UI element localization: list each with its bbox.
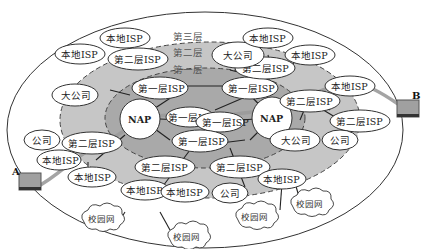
svg-text:本地ISP: 本地ISP [106,33,143,44]
local-isp-node[interactable]: 本地ISP [55,44,105,64]
local-isp-node[interactable]: 本地ISP [37,150,81,170]
big-company-node[interactable]: 大公司 [52,84,98,106]
svg-text:第二层ISP: 第二层ISP [286,96,333,107]
svg-text:第一层ISP: 第一层ISP [138,83,185,94]
svg-text:校园网: 校园网 [173,232,200,242]
company-node[interactable]: 公司 [24,130,60,150]
tier2-isp-node[interactable]: 第二层ISP [280,90,340,112]
tier1-label: 第一层 [173,64,203,75]
isp-hierarchy-diagram: 第三层 第二层 第一层 NAP NAP [0,0,428,249]
svg-text:本地ISP: 本地ISP [263,174,300,185]
local-isp-node[interactable]: 本地ISP [68,167,116,187]
tier2-isp-node[interactable]: 第二层ISP [330,110,390,132]
svg-text:公司: 公司 [330,135,350,146]
svg-text:第一层ISP: 第一层ISP [178,136,225,147]
local-isp-node[interactable]: 本地ISP [325,76,375,96]
big-company-node[interactable]: 大公司 [270,129,320,151]
tier2-isp-node[interactable]: 第二层ISP [108,48,168,70]
svg-text:本地ISP: 本地ISP [61,49,98,60]
tier1-isp-node[interactable]: 第一层ISP [222,77,278,99]
svg-text:校园网: 校园网 [296,199,323,209]
tier3-label: 第三层 [173,31,203,42]
local-isp-node[interactable]: 本地ISP [243,28,293,48]
tier1-isp-node[interactable]: 第一层ISP [132,77,188,99]
local-isp-node[interactable]: 本地ISP [100,28,150,48]
tier2-isp-node[interactable]: 第二层ISP [135,156,195,178]
local-isp-node[interactable]: 本地ISP [285,45,335,65]
svg-text:第二层ISP: 第二层ISP [114,54,161,65]
svg-text:A: A [11,166,20,177]
tier1-isp-node[interactable]: 第一层ISP [172,130,228,152]
svg-text:本地ISP: 本地ISP [126,185,163,196]
svg-text:本地ISP: 本地ISP [42,155,79,166]
local-isp-node[interactable]: 本地ISP [161,182,209,202]
svg-text:本地ISP: 本地ISP [249,33,286,44]
svg-text:公司: 公司 [220,188,240,199]
svg-text:第一层ISP: 第一层ISP [228,83,275,94]
svg-text:本地ISP: 本地ISP [74,172,111,183]
svg-text:第二层ISP: 第二层ISP [68,138,115,149]
svg-text:第二层ISP: 第二层ISP [216,162,263,173]
svg-text:大公司: 大公司 [61,90,91,101]
svg-text:公司: 公司 [32,135,52,146]
svg-text:第二层ISP: 第二层ISP [141,162,188,173]
host-b[interactable]: B [397,90,420,117]
svg-text:本地ISP: 本地ISP [291,50,328,61]
svg-text:本地ISP: 本地ISP [166,187,203,198]
svg-text:本地ISP: 本地ISP [331,81,368,92]
svg-text:校园网: 校园网 [88,214,115,224]
nap-left[interactable]: NAP [120,99,160,139]
company-node[interactable]: 公司 [212,183,248,203]
tier2-isp-node[interactable]: 第二层ISP [62,132,122,154]
svg-text:大公司: 大公司 [281,135,311,146]
svg-text:B: B [412,90,420,101]
svg-text:大公司: 大公司 [223,50,253,61]
svg-text:校园网: 校园网 [241,212,268,222]
svg-text:第一层ISP: 第一层ISP [202,117,249,128]
svg-text:NAP: NAP [128,114,151,125]
svg-text:NAP: NAP [260,113,283,124]
svg-text:第二层ISP: 第二层ISP [336,116,383,127]
tier2-label: 第二层 [173,47,203,58]
company-node[interactable]: 公司 [322,130,358,150]
local-isp-node[interactable]: 本地ISP [258,169,306,189]
